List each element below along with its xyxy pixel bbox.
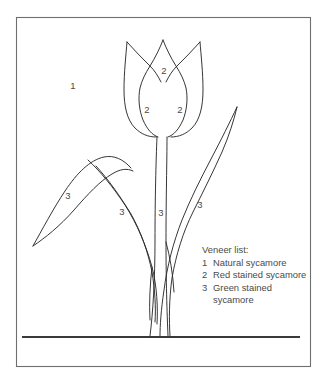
region-label-group: 1 2 2 2 3 3 3 3 xyxy=(65,65,202,218)
region-label-petal-right: 2 xyxy=(177,104,182,115)
legend-item-1-label: Natural sycamore xyxy=(213,257,314,270)
region-label-petal-center-top: 2 xyxy=(161,65,166,76)
marquetry-pattern-page: 1 2 2 2 3 3 3 3 Veneer list: 1 Natural s… xyxy=(0,0,327,381)
legend-item-2: 2 Red stained sycamore xyxy=(202,269,314,282)
region-label-stem: 3 xyxy=(158,207,163,218)
legend-item-2-label: Red stained sycamore xyxy=(213,269,314,282)
petal-center-right-edge xyxy=(163,40,187,137)
region-label-background: 1 xyxy=(70,80,75,91)
region-label-leaf-left: 3 xyxy=(119,206,124,217)
petal-right-notch-edge xyxy=(166,42,200,82)
branch-right-edge xyxy=(166,242,174,292)
veneer-list-legend: Veneer list: 1 Natural sycamore 2 Red st… xyxy=(202,244,314,307)
region-label-leaf-far-left: 3 xyxy=(65,190,70,201)
legend-item-1: 1 Natural sycamore xyxy=(202,257,314,270)
region-label-petal-left: 2 xyxy=(144,104,149,115)
legend-item-3-number: 3 xyxy=(202,282,213,295)
legend-item-3-label: Green stained sycamore xyxy=(213,282,314,307)
leaf-left-upper-inner-edge xyxy=(33,169,133,246)
stem-left-edge xyxy=(150,137,157,336)
petal-center-left-edge xyxy=(139,40,163,137)
legend-item-2-number: 2 xyxy=(202,269,213,282)
region-label-leaf-right: 3 xyxy=(197,199,202,210)
tulip-flower-head xyxy=(124,40,203,137)
legend-item-3: 3 Green stained sycamore xyxy=(202,282,314,307)
tulip-line-drawing: 1 2 2 2 3 3 3 3 xyxy=(0,0,327,381)
legend-item-1-number: 1 xyxy=(202,257,213,270)
branch-left-edge xyxy=(150,267,152,320)
legend-list: 1 Natural sycamore 2 Red stained sycamor… xyxy=(202,257,314,307)
leaf-left-lower-inner-edge xyxy=(96,166,155,322)
stem-right-edge xyxy=(166,137,168,336)
leaf-left-upper-shape xyxy=(33,156,133,246)
legend-title: Veneer list: xyxy=(202,244,314,257)
tulip-stem xyxy=(150,137,168,336)
